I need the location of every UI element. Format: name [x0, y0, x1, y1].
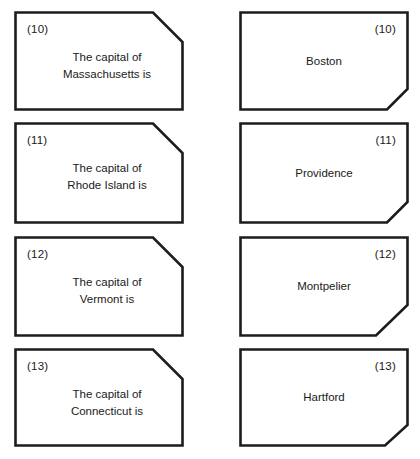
card-number-label: (12)	[27, 249, 48, 261]
card-pair-row: (11) The capital of Rhode Island is (11)…	[0, 122, 420, 224]
answer-text: Providence	[239, 122, 409, 224]
question-card[interactable]: (10) The capital of Massachusetts is	[14, 11, 184, 111]
answer-card[interactable]: (10) Boston	[239, 11, 409, 111]
answer-value: Boston	[306, 53, 342, 70]
question-text: The capital of Massachusetts is	[14, 49, 184, 82]
question-line-2: Vermont is	[40, 291, 174, 308]
question-text: The capital of Connecticut is	[14, 386, 184, 419]
question-line-2: Massachusetts is	[40, 66, 174, 83]
card-pair-row: (13) The capital of Connecticut is (13) …	[0, 348, 420, 447]
question-line-1: The capital of	[40, 49, 174, 66]
question-line-1: The capital of	[40, 160, 174, 177]
question-line-2: Rhode Island is	[40, 177, 174, 194]
question-card[interactable]: (11) The capital of Rhode Island is	[14, 122, 184, 224]
card-number-label: (11)	[27, 135, 47, 147]
question-line-2: Connecticut is	[40, 403, 174, 420]
card-number-label: (13)	[27, 361, 48, 373]
answer-card[interactable]: (11) Providence	[239, 122, 409, 224]
worksheet-canvas: (10) The capital of Massachusetts is (10…	[0, 0, 420, 459]
question-card[interactable]: (13) The capital of Connecticut is	[14, 348, 184, 447]
question-line-1: The capital of	[40, 386, 174, 403]
card-number-label: (10)	[27, 24, 48, 36]
answer-text: Boston	[239, 11, 409, 111]
answer-card[interactable]: (13) Hartford	[239, 348, 409, 447]
answer-text: Montpelier	[239, 236, 409, 337]
question-text: The capital of Rhode Island is	[14, 160, 184, 193]
answer-value: Hartford	[303, 389, 345, 406]
answer-value: Providence	[295, 165, 353, 182]
question-text: The capital of Vermont is	[14, 274, 184, 307]
card-pair-row: (10) The capital of Massachusetts is (10…	[0, 11, 420, 111]
card-pair-row: (12) The capital of Vermont is (12) Mont…	[0, 236, 420, 337]
question-line-1: The capital of	[40, 274, 174, 291]
answer-text: Hartford	[239, 348, 409, 447]
answer-value: Montpelier	[297, 278, 351, 295]
question-card[interactable]: (12) The capital of Vermont is	[14, 236, 184, 337]
answer-card[interactable]: (12) Montpelier	[239, 236, 409, 337]
